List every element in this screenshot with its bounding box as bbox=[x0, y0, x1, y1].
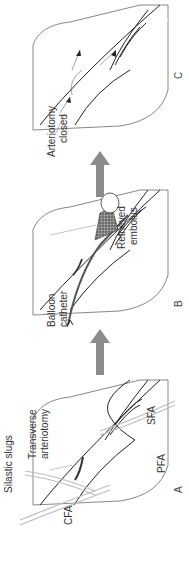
label-retrieved: Retrieved bbox=[116, 206, 127, 249]
panel-label-c: C bbox=[173, 72, 184, 79]
panel-c-vessel-lumen bbox=[40, 5, 168, 125]
label-arteriotomy-closed: Arteriotomy bbox=[46, 106, 57, 157]
panel-a-silastic-slug-1 bbox=[25, 471, 95, 495]
panel-a-transverse-leader bbox=[50, 465, 72, 470]
label-arteriotomy: arteriotomy bbox=[39, 409, 50, 459]
panel-b-retrieved-leader bbox=[50, 225, 96, 235]
label-embolus: embolus bbox=[128, 207, 139, 245]
embolectomy-figure: Silastic slugs Transverse arteriotomy CF… bbox=[0, 0, 189, 575]
panel-a-vessel-upper-wall bbox=[40, 380, 160, 505]
panel-a: Silastic slugs Transverse arteriotomy CF… bbox=[3, 380, 184, 525]
step-arrow-b-to-c bbox=[90, 151, 110, 197]
label-transverse: Transverse bbox=[27, 409, 38, 459]
label-sfa: SFA bbox=[146, 406, 157, 425]
panel-b-vessel-lower-wall bbox=[70, 250, 130, 310]
panel-b: Balloon catheter Retrieved embolus B bbox=[33, 190, 184, 327]
label-catheter: catheter bbox=[58, 290, 69, 327]
label-closed: closed bbox=[58, 114, 69, 143]
label-balloon: Balloon bbox=[46, 294, 57, 327]
label-pfa: PFA bbox=[156, 454, 167, 473]
label-cfa: CFA bbox=[63, 505, 74, 525]
panel-c: Arteriotomy closed C bbox=[33, 5, 184, 157]
panel-a-tissue-outline bbox=[33, 380, 168, 505]
label-silastic-slugs: Silastic slugs bbox=[3, 435, 14, 493]
panel-c-flow-arrowhead-2-icon bbox=[76, 50, 81, 56]
step-arrow-a-to-b bbox=[90, 329, 110, 375]
panel-label-b: B bbox=[173, 300, 184, 307]
panel-label-a: A bbox=[173, 486, 184, 493]
